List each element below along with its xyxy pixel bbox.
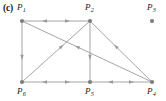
graph-node-P2[interactable]: [88, 19, 92, 23]
node-label-P2: P2: [85, 3, 94, 12]
graph-node-P1[interactable]: [20, 19, 24, 23]
node-label-P4: P4: [147, 87, 156, 96]
node-label-subscript-P4: 4: [153, 90, 156, 97]
node-label-base-P5: P: [85, 86, 91, 96]
arrowhead-forward: [20, 55, 23, 60]
graph-node-P6[interactable]: [20, 80, 24, 84]
arrowhead-forward: [129, 80, 134, 83]
node-label-P6: P6: [17, 87, 26, 96]
arrowhead-forward: [88, 55, 91, 60]
node-label-P3: P3: [147, 3, 156, 12]
graph-edge-e-P4-P2: [92, 23, 151, 81]
arrowhead-forward: [75, 46, 80, 50]
graph-node-P3[interactable]: [150, 19, 154, 23]
node-label-P5: P5: [85, 87, 94, 96]
node-label-base-P2: P: [85, 2, 91, 12]
graph-edge-e-P6-P5: [24, 80, 88, 83]
node-label-P1: P1: [17, 3, 26, 12]
arrowhead-forward: [65, 19, 70, 22]
directed-graph-canvas: [0, 0, 166, 101]
edge-layer: [20, 19, 150, 83]
graph-edge-e-P5-P4: [92, 80, 150, 83]
arrowhead-forward: [65, 80, 70, 83]
graph-edge-e-P6-P2: [24, 22, 89, 80]
arrowhead-reverse: [42, 80, 47, 83]
node-label-base-P1: P: [17, 2, 23, 12]
arrowhead-reverse: [42, 19, 47, 22]
arrowhead-reverse: [108, 80, 113, 83]
graph-edge-e-P1-P2: [24, 19, 88, 22]
node-label-subscript-P5: 5: [91, 90, 94, 97]
graph-edge-e-P2-P5: [88, 23, 91, 80]
node-label-base-P4: P: [147, 86, 153, 96]
node-label-base-P3: P: [147, 2, 153, 12]
node-label-subscript-P6: 6: [23, 90, 26, 97]
graph-edge-e-P4-P1: [24, 22, 150, 81]
graph-edge-e-P1-P6: [20, 23, 23, 80]
node-label-subscript-P3: 3: [153, 6, 156, 13]
node-label-subscript-P1: 1: [23, 6, 26, 13]
graph-node-P5[interactable]: [88, 80, 92, 84]
graph-figure-panel-c: (c) P1P2P3P4P5P6: [0, 0, 166, 101]
node-label-subscript-P2: 2: [91, 6, 94, 13]
node-label-base-P6: P: [17, 86, 23, 96]
graph-node-P4[interactable]: [150, 80, 154, 84]
